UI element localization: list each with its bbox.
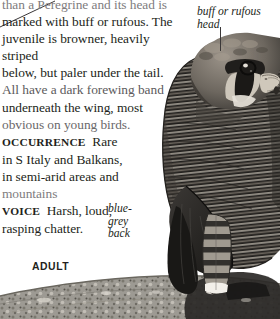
- description-line-4: below, but paler under the tail.: [2, 64, 188, 81]
- voice-text-1: Harsh, loud,: [47, 203, 112, 218]
- falcon-head: [186, 28, 280, 114]
- annotation-buff-or-rufous-head: buff or rufous head: [197, 6, 261, 31]
- description-line-7: obvious on young birds.: [2, 116, 188, 133]
- voice-heading: VOICE: [2, 205, 40, 217]
- occurrence-line-3: in semi-arid areas and: [2, 168, 188, 185]
- description-line-5: All have a dark forewing band: [2, 81, 188, 98]
- voice-line-1: VOICE Harsh, loud,: [2, 202, 188, 220]
- plate-label-adult: ADULT: [32, 261, 69, 272]
- description-line-6: underneath the wing, most: [2, 99, 188, 116]
- field-guide-page: than a Peregrine and its head is marked …: [0, 0, 280, 319]
- occurrence-text-1: Rare: [92, 134, 117, 149]
- occurrence-line-2: in S Italy and Balkans,: [2, 151, 188, 168]
- occurrence-line-1: OCCURRENCE Rare: [2, 133, 188, 151]
- occurrence-line-4: mountains: [2, 185, 188, 202]
- description-line-2: marked with buff or rufous. The: [2, 13, 188, 30]
- barred-tail: [203, 214, 231, 294]
- occurrence-heading: OCCURRENCE: [2, 136, 86, 148]
- voice-line-2: rasping chatter.: [2, 220, 188, 237]
- annotation-blue-grey-back: blue- grey back: [108, 203, 132, 241]
- rock-perch: [0, 272, 280, 319]
- leader-line-head: [220, 27, 221, 51]
- species-description: than a Peregrine and its head is marked …: [2, 0, 188, 237]
- description-line-1: than a Peregrine and its head is: [2, 0, 188, 13]
- description-line-3: juvenile is browner, heavily striped: [2, 30, 188, 64]
